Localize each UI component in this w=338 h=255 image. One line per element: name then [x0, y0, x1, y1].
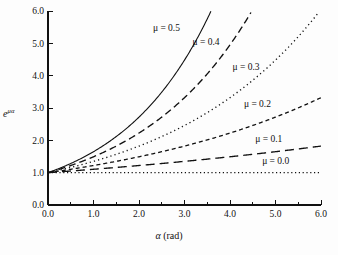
curve-label-mu-0-3: μ = 0.3 — [233, 63, 260, 73]
curve-mu-0-4 — [48, 13, 251, 173]
x-tick-label: 6.0 — [315, 209, 327, 219]
curve-label-mu-0-1: μ = 0.1 — [255, 135, 282, 145]
y-tick-label: 5.0 — [32, 39, 44, 49]
curve-label-mu-0-5: μ = 0.5 — [153, 24, 180, 34]
x-axis-title: α (rad) — [0, 231, 338, 241]
chart-plot-area: 0.01.02.03.04.05.06.00.01.02.03.04.05.06… — [0, 0, 338, 255]
curve-label-mu-0-2: μ = 0.2 — [244, 100, 271, 110]
y-axis-title: eμα — [3, 108, 15, 119]
x-tick-label: 1.0 — [88, 209, 100, 219]
y-tick-label: 3.0 — [32, 103, 44, 113]
x-tick-label: 0.0 — [42, 209, 54, 219]
figure-root: 0.01.02.03.04.05.06.00.01.02.03.04.05.06… — [0, 0, 338, 255]
y-tick-label: 4.0 — [32, 71, 44, 81]
x-tick-label: 2.0 — [133, 209, 145, 219]
y-tick-label: 6.0 — [32, 6, 44, 16]
y-tick-label: 2.0 — [32, 136, 44, 146]
curves-group — [48, 11, 321, 172]
y-axis-exponent: μα — [7, 107, 14, 114]
curve-label-mu-0-0: μ = 0.0 — [262, 157, 289, 167]
y-tick-label: 1.0 — [32, 168, 44, 178]
axes-group: 0.01.02.03.04.05.06.00.01.02.03.04.05.06… — [32, 6, 327, 218]
curve-mu-0-3 — [48, 12, 319, 173]
x-tick-label: 3.0 — [179, 209, 191, 219]
x-tick-label: 4.0 — [224, 209, 236, 219]
curve-mu-0-5 — [48, 11, 211, 172]
curve-label-mu-0-4: μ = 0.4 — [193, 38, 220, 48]
x-axis-units: (rad) — [163, 230, 182, 241]
x-tick-label: 5.0 — [270, 209, 282, 219]
